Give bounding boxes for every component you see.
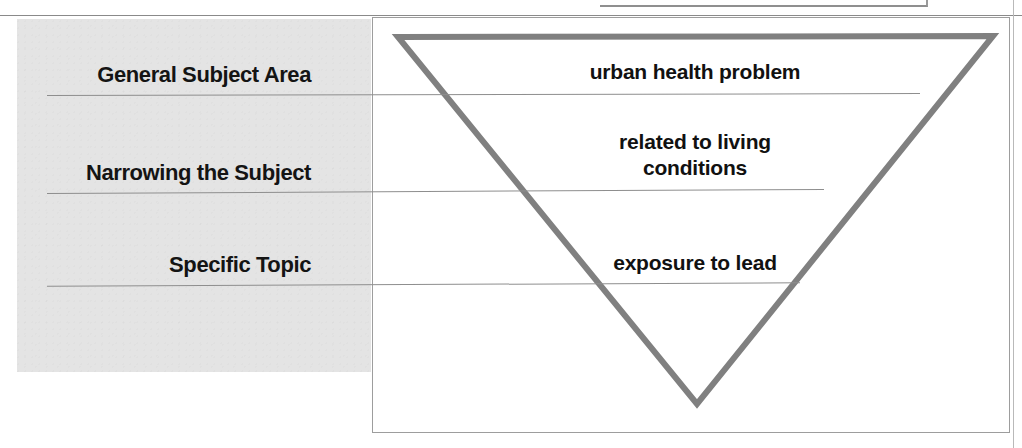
- topic-narrowed-subject-line-1: related to living: [495, 129, 895, 155]
- stage-label-narrowing-the-subject: Narrowing the Subject: [0, 160, 371, 186]
- topic-general-subject: urban health problem: [455, 59, 935, 85]
- adjacent-box-fragment: [600, 0, 928, 7]
- page-top-rule: [0, 15, 1022, 16]
- page-right-margin-rule: [1013, 0, 1014, 448]
- topic-narrowed-subject: related to living conditions: [495, 129, 895, 181]
- stage-label-general-subject-area: General Subject Area: [0, 62, 371, 88]
- topic-narrowed-subject-line-2: conditions: [495, 155, 895, 181]
- topic-specific-topic: exposure to lead: [495, 250, 895, 276]
- stage-label-specific-topic: Specific Topic: [0, 252, 371, 278]
- figure-page: General Subject Area Narrowing the Subje…: [0, 0, 1022, 448]
